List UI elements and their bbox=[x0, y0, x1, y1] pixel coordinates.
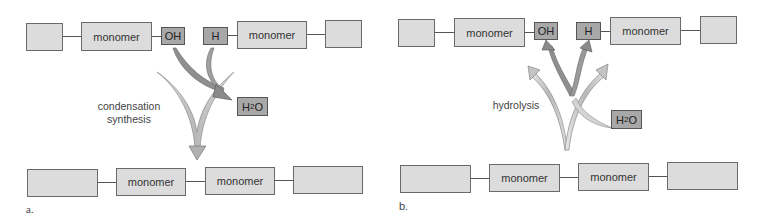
bond-line bbox=[186, 181, 205, 182]
water-molecule: H2O bbox=[237, 97, 268, 116]
bond-line bbox=[649, 176, 667, 177]
panel-label-b: b. bbox=[399, 200, 408, 212]
polymer-end-left bbox=[400, 165, 471, 193]
process-label-hydrolysis: hydrolysis bbox=[486, 99, 546, 112]
polymer-end-right bbox=[667, 162, 738, 190]
process-label-condensation: condensation synthesis bbox=[92, 100, 166, 126]
polymer-end-left bbox=[27, 169, 98, 197]
polymer-monomer-1: monomer bbox=[489, 164, 560, 192]
polymer-monomer-2: monomer bbox=[578, 163, 649, 191]
polymer-monomer-1: monomer bbox=[116, 168, 186, 196]
panel-label-a: a. bbox=[26, 203, 34, 215]
polymer-monomer-2: monomer bbox=[205, 167, 275, 195]
water-molecule: H2O bbox=[611, 110, 642, 129]
bond-line bbox=[560, 177, 578, 178]
panel-a-condensation: monomer OH H monomer H2O condensation sy… bbox=[0, 0, 380, 219]
bond-line bbox=[471, 178, 489, 179]
bond-line bbox=[275, 180, 293, 181]
bond-line bbox=[98, 182, 116, 183]
polymer-end-right bbox=[293, 166, 363, 194]
panel-b-hydrolysis: monomer OH H monomer H2O hydrolysis mono… bbox=[380, 0, 757, 219]
